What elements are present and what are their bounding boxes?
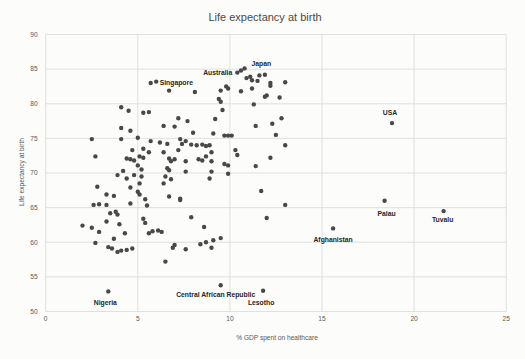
chart-container: 0510152025505560657075808590 SingaporeAu… [0,0,525,359]
data-point [125,156,129,160]
data-point [255,79,259,83]
data-point [207,143,211,147]
data-point [117,222,121,226]
data-point [104,203,108,207]
y-tick-label: 65 [30,204,38,211]
data-point [198,242,202,246]
data-point [254,124,258,128]
chart-title: Life expectancy at birth [208,11,321,23]
data-point [209,246,213,250]
data-point [130,148,134,152]
data-point [235,153,239,157]
data-point [154,79,158,83]
data-point [132,158,136,162]
data-point [132,173,136,177]
data-point [145,203,149,207]
data-point [184,169,188,173]
data-point [274,133,278,137]
data-point [125,176,129,180]
data-point [97,230,101,234]
data-point [211,131,215,135]
data-point [250,78,254,82]
data-point [125,248,129,252]
data-point [93,241,97,245]
data-point [219,236,223,240]
data-point [277,95,281,99]
data-point [115,173,119,177]
data-point [180,142,184,146]
label-singapore: Singapore [160,79,193,87]
data-point-central-african-republic [219,283,223,287]
data-point [167,88,171,92]
data-point [141,217,145,221]
data-point [226,86,230,90]
data-point [178,137,182,141]
data-point [172,124,176,128]
y-tick-label: 85 [30,65,38,72]
label-central-african-republic: Central African Republic [176,291,255,299]
label-usa: USA [383,109,397,116]
data-point [244,76,248,80]
y-tick-label: 75 [30,135,38,142]
data-point [108,211,112,215]
data-point [119,248,123,252]
data-point [150,229,154,233]
data-point [233,148,237,152]
data-point [97,202,101,206]
data-point [90,226,94,230]
data-point [195,143,199,147]
data-point-lesotho [261,289,265,293]
data-point [163,259,167,263]
data-point [128,185,132,189]
data-point [193,90,197,94]
label-afghanistan: Afghanistan [313,236,352,244]
data-point [283,80,287,84]
label-palau: Palau [378,210,396,217]
x-tick-label: 15 [318,315,326,322]
data-point [147,110,151,114]
data-point [191,131,195,135]
data-point [160,230,164,234]
data-point [213,117,217,121]
data-point [209,159,213,163]
data-point [158,140,162,144]
data-point [167,194,171,198]
label-tuvalu: Tuvalu [432,216,453,223]
data-point [143,221,147,225]
data-point [239,89,243,93]
data-point [115,212,119,216]
data-point [209,169,213,173]
data-point [189,215,193,219]
data-point [178,198,182,202]
label-nigeria: Nigeria [94,299,117,307]
data-point [184,139,188,143]
data-point [189,142,193,146]
data-point [112,194,116,198]
y-tick-label: 60 [30,239,38,246]
data-point [163,174,167,178]
data-point [161,150,165,154]
data-point [184,247,188,251]
data-point [207,176,211,180]
data-point [283,203,287,207]
data-point [80,223,84,227]
y-tick-label: 50 [30,308,38,315]
data-point [165,142,169,146]
data-point [95,185,99,189]
data-point [230,133,234,137]
data-point [176,116,180,120]
data-point [149,139,153,143]
data-point [167,168,171,172]
data-point [136,136,140,140]
data-point [250,86,254,90]
data-point [119,137,123,141]
data-point [265,216,269,220]
scatter-chart: 0510152025505560657075808590 SingaporeAu… [0,0,525,359]
label-japan: Japan [252,60,272,68]
data-point-usa [390,121,394,125]
data-point [91,203,95,207]
data-point [172,243,176,247]
label-lesotho: Lesotho [248,299,274,306]
data-point [161,181,165,185]
data-point [202,225,206,229]
